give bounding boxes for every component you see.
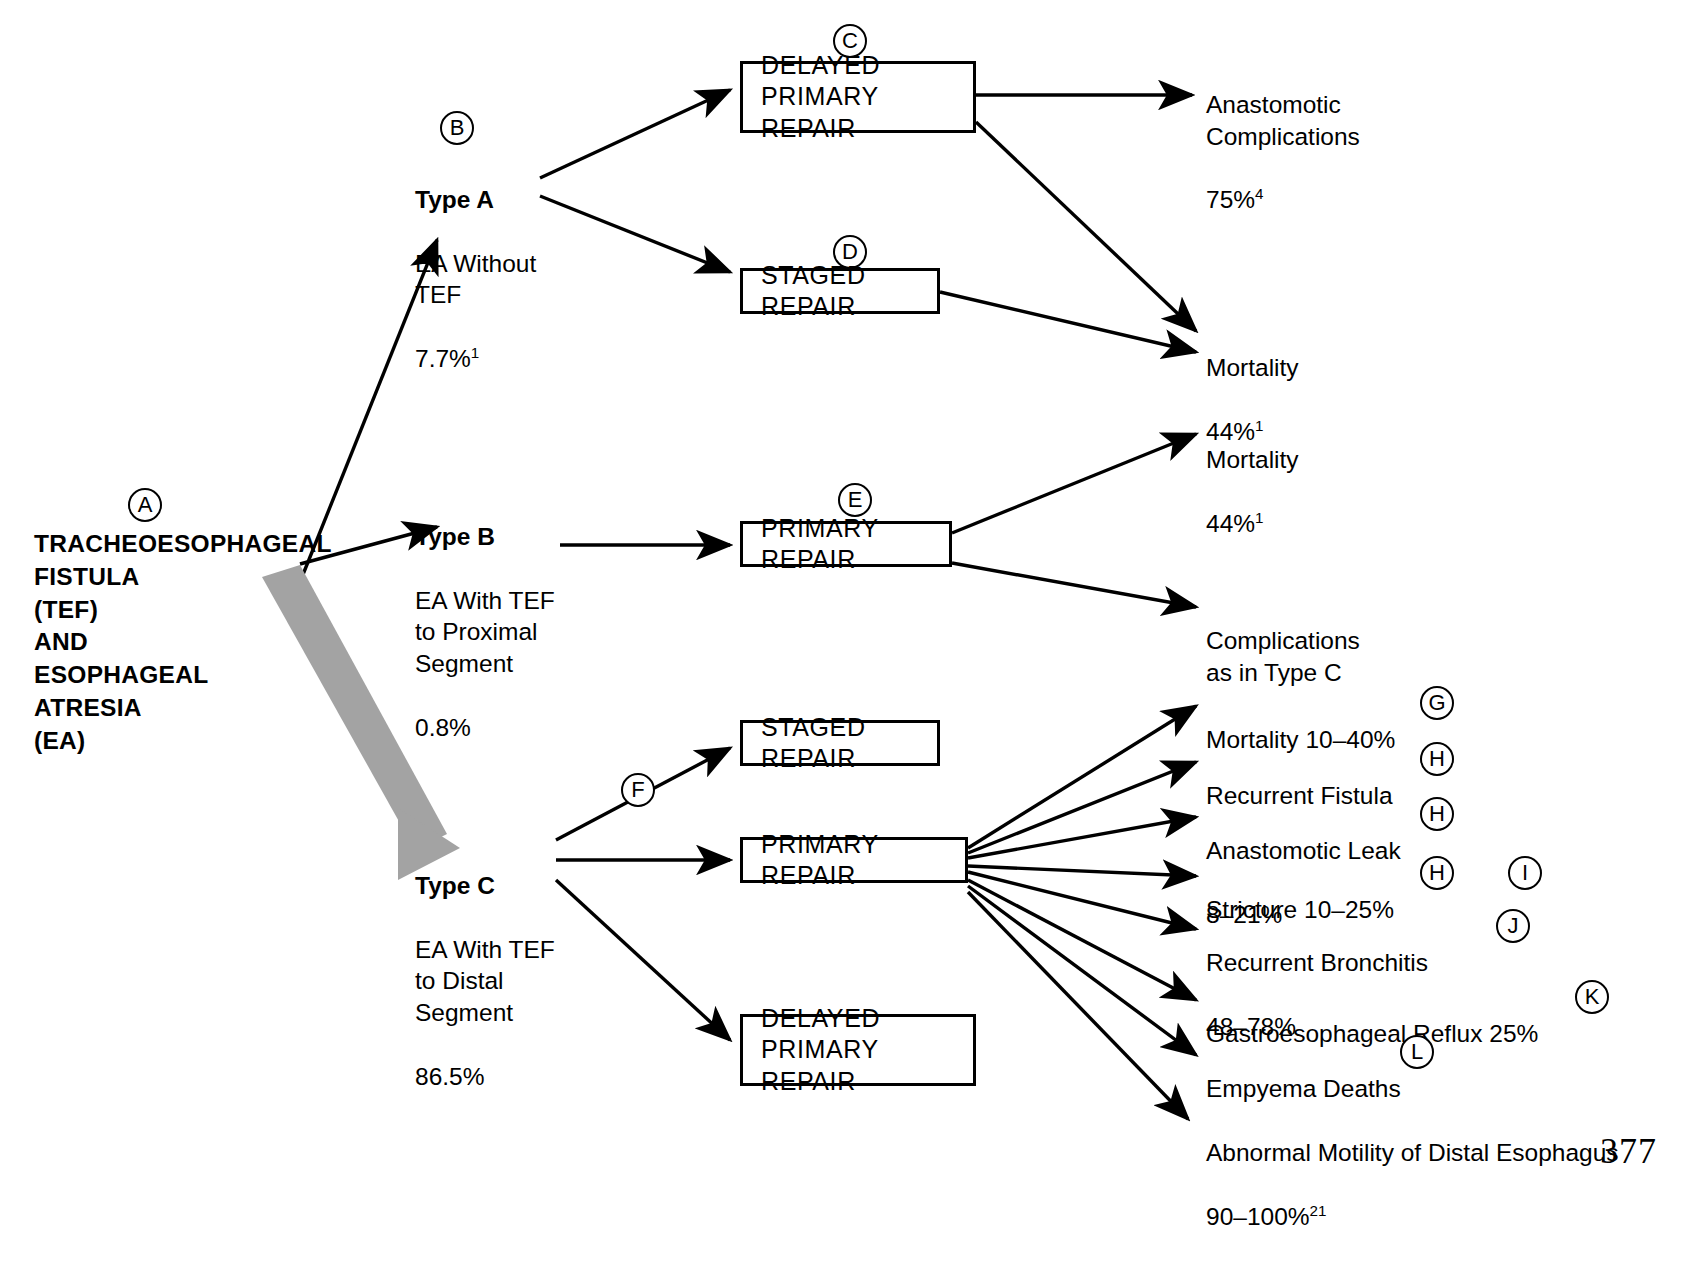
edge-delayed-primary-repair-to-mortality bbox=[976, 122, 1196, 331]
marker-a-icon: A bbox=[128, 488, 162, 522]
marker-i-icon-stricture: I bbox=[1508, 856, 1542, 890]
marker-g-icon: G bbox=[1420, 686, 1454, 720]
type-b-node: Type B EA With TEF to Proximal Segment 0… bbox=[415, 489, 615, 744]
outcome-mortality-type-b-sub: 44%1 bbox=[1206, 508, 1446, 540]
page-number: 377 bbox=[1600, 1130, 1657, 1172]
marker-h-label-recurrent-fistula: H bbox=[1429, 746, 1445, 772]
marker-b-icon: B bbox=[440, 111, 474, 145]
edge-primary-repair-c-to-recurrent-bronchitis bbox=[968, 872, 1196, 929]
type-c-rate: 86.5% bbox=[415, 1063, 484, 1090]
edge-staged-repair-to-mortality bbox=[940, 292, 1196, 352]
edge-primary-repair-c-to-abnormal-motility bbox=[968, 892, 1188, 1119]
outcome-complications-as-in-type-c-main: Complications as in Type C bbox=[1206, 625, 1466, 689]
treatment-primary-repair-b[interactable]: PRIMARY REPAIR bbox=[740, 521, 952, 567]
marker-l-label: L bbox=[1411, 1039, 1423, 1065]
outcome-anastomotic-complications-sub: 75%4 bbox=[1206, 184, 1446, 216]
type-c-name: Type C bbox=[415, 870, 615, 902]
outcome-recurrent-bronchitis-main: Recurrent Bronchitis bbox=[1206, 947, 1506, 979]
marker-i-label-stricture: I bbox=[1522, 860, 1528, 886]
treatment-staged-repair-a-label: STAGED REPAIR bbox=[761, 260, 937, 323]
marker-l-icon: L bbox=[1400, 1035, 1434, 1069]
outcome-abnormal-motility-main: Abnormal Motility of Distal Esophagus bbox=[1206, 1137, 1646, 1169]
treatment-primary-repair-b-label: PRIMARY REPAIR bbox=[761, 513, 949, 576]
root-node-label: TRACHEOESOPHAGEAL FISTULA (TEF) AND ESOP… bbox=[34, 528, 304, 758]
treatment-staged-repair-c-label: STAGED REPAIR bbox=[761, 712, 937, 775]
type-b-body: EA With TEF to Proximal Segment bbox=[415, 585, 615, 681]
marker-h-icon-recurrent-fistula: H bbox=[1420, 742, 1454, 776]
edge-primary-repair-c-to-empyema-deaths bbox=[968, 886, 1196, 1055]
marker-k-icon: K bbox=[1575, 980, 1609, 1014]
edge-primary-repair-b-to-complications bbox=[952, 563, 1196, 607]
outcome-anastomotic-complications-main: Anastomotic Complications bbox=[1206, 89, 1446, 153]
treatment-staged-repair-a[interactable]: STAGED REPAIR bbox=[740, 268, 940, 314]
marker-b-label: B bbox=[450, 115, 465, 141]
type-c-node: Type C EA With TEF to Distal Segment 86.… bbox=[415, 838, 615, 1093]
marker-e-label: E bbox=[848, 487, 863, 513]
type-c-body: EA With TEF to Distal Segment bbox=[415, 934, 615, 1030]
outcome-abnormal-motility: Abnormal Motility of Distal Esophagus 90… bbox=[1206, 1105, 1646, 1264]
marker-h-label-anastomotic-leak: H bbox=[1429, 801, 1445, 827]
marker-k-label: K bbox=[1585, 984, 1600, 1010]
treatment-delayed-primary-repair-c-label: DELAYED PRIMARY REPAIR bbox=[761, 1003, 973, 1097]
edge-primary-repair-c-to-gastroesophageal-reflux bbox=[968, 880, 1196, 1000]
type-a-name: Type A bbox=[415, 184, 605, 216]
marker-h-icon-anastomotic-leak: H bbox=[1420, 797, 1454, 831]
diagram-page: A TRACHEOESOPHAGEAL FISTULA (TEF) AND ES… bbox=[0, 0, 1695, 1285]
type-a-body: EA Without TEF bbox=[415, 248, 605, 312]
marker-f-icon: F bbox=[621, 773, 655, 807]
treatment-staged-repair-c[interactable]: STAGED REPAIR bbox=[740, 720, 940, 766]
marker-h-icon-stricture: H bbox=[1420, 856, 1454, 890]
type-b-name: Type B bbox=[415, 521, 615, 553]
treatment-delayed-primary-repair-a-label: DELAYED PRIMARY REPAIR bbox=[761, 50, 973, 144]
type-b-rate: 0.8% bbox=[415, 714, 471, 741]
outcome-mortality-type-b: Mortality 44%1 bbox=[1206, 412, 1446, 571]
marker-h-label-stricture: H bbox=[1429, 860, 1445, 886]
outcome-mortality-type-b-main: Mortality bbox=[1206, 444, 1446, 476]
outcome-anastomotic-complications: Anastomotic Complications 75%4 bbox=[1206, 57, 1446, 248]
treatment-delayed-primary-repair-c[interactable]: DELAYED PRIMARY REPAIR bbox=[740, 1014, 976, 1086]
outcome-empyema-deaths-main: Empyema Deaths bbox=[1206, 1073, 1506, 1105]
treatment-primary-repair-c[interactable]: PRIMARY REPAIR bbox=[740, 837, 968, 883]
marker-g-label: G bbox=[1428, 690, 1445, 716]
edge-primary-repair-c-to-anastomotic-leak bbox=[968, 817, 1196, 858]
edge-primary-repair-b-to-mortality bbox=[952, 434, 1196, 533]
type-a-rate-note: 1 bbox=[471, 344, 479, 361]
marker-a-label: A bbox=[138, 492, 153, 518]
type-a-rate: 7.7%1 bbox=[415, 345, 479, 372]
outcome-abnormal-motility-sub: 90–100%21 bbox=[1206, 1201, 1646, 1233]
marker-f-label: F bbox=[631, 777, 644, 803]
type-a-node: Type A EA Without TEF 7.7%1 bbox=[415, 152, 605, 375]
marker-j-label: J bbox=[1508, 913, 1519, 939]
outcome-mortality-type-a-main: Mortality bbox=[1206, 352, 1446, 384]
edge-primary-repair-c-to-stricture bbox=[968, 866, 1196, 876]
treatment-delayed-primary-repair-a[interactable]: DELAYED PRIMARY REPAIR bbox=[740, 61, 976, 133]
treatment-primary-repair-c-label: PRIMARY REPAIR bbox=[761, 829, 965, 892]
marker-j-icon: J bbox=[1496, 909, 1530, 943]
